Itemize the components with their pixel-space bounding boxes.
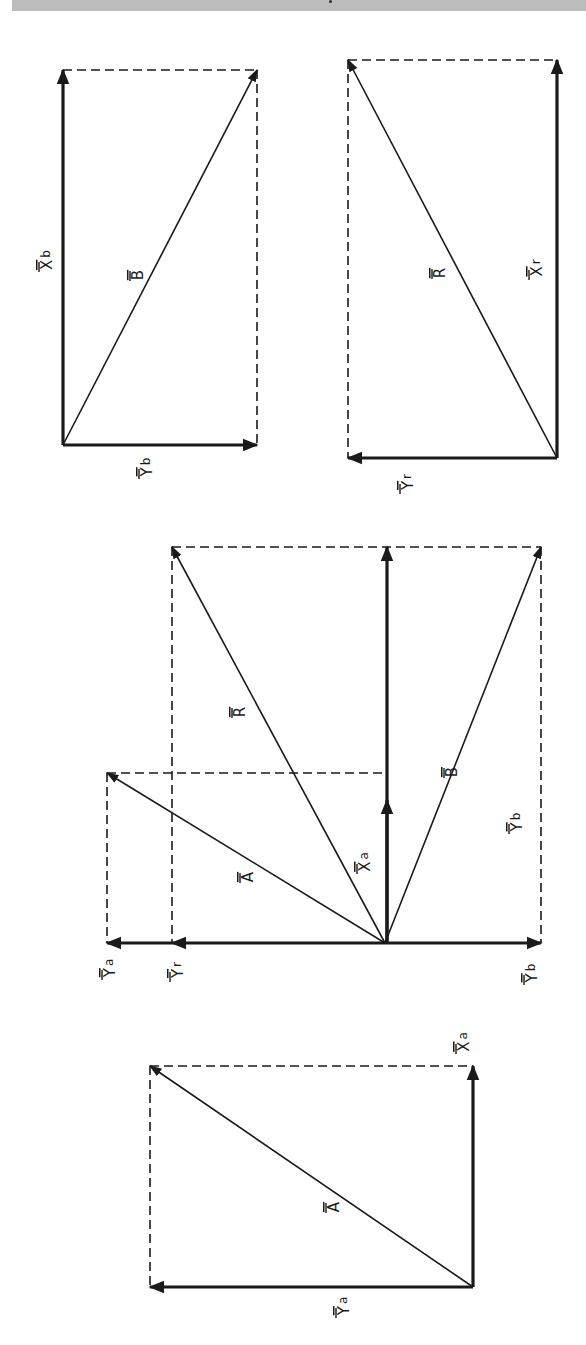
vector-label: Yr (169, 962, 187, 979)
diagram-vector-r: XrRYr (348, 60, 557, 494)
vector-label: Xa (455, 1032, 473, 1052)
vector-label: Yb (508, 813, 526, 833)
label-main: X (528, 266, 546, 276)
label-main: X (38, 260, 56, 270)
vector-arrow-r (172, 547, 385, 943)
label-main: Y (399, 480, 417, 491)
vector-label: B (129, 270, 147, 280)
vector-label: Xr (528, 259, 546, 276)
vector-label: Ya (101, 959, 119, 979)
label-subscript: a (357, 852, 371, 859)
vector-arrow-r (348, 60, 557, 458)
label-main: A (325, 1201, 343, 1212)
label-main: Y (508, 821, 526, 832)
label-subscript: r (529, 259, 543, 264)
label-main: X (455, 1042, 473, 1052)
label-subscript: b (39, 250, 53, 258)
vector-label: Xa (356, 852, 374, 872)
label-main: Y (138, 466, 156, 477)
vector-label: Ya (335, 1297, 353, 1317)
label-main: Y (169, 968, 187, 979)
vector-label: Yr (399, 474, 417, 491)
label-subscript: b (509, 813, 523, 821)
label-subscript: a (102, 959, 116, 966)
label-subscript: a (336, 1297, 350, 1304)
label-main: B (129, 270, 147, 280)
label-main: Y (335, 1305, 353, 1316)
vector-arrow-a (107, 773, 385, 943)
label-subscript: r (170, 962, 184, 967)
label-subscript: b (524, 964, 538, 972)
vector-label: A (325, 1201, 343, 1212)
label-subscript: r (400, 474, 414, 479)
vector-arrow-b (63, 70, 257, 445)
diagram-vector-a: XaAYa (150, 1032, 473, 1318)
vector-label: B (443, 767, 461, 777)
vector-diagram-canvas: XbBYb XrRYr RBYbXaAYaYrYb XaAYa (0, 0, 586, 1345)
vector-label: R (431, 268, 449, 278)
vector-label: R (231, 707, 249, 717)
diagram-vector-b: XbBYb (38, 70, 258, 479)
vector-label: Xb (38, 250, 56, 270)
label-main: X (356, 862, 374, 872)
label-main: B (443, 767, 461, 777)
vector-label: A (239, 871, 257, 882)
label-subscript: b (139, 458, 153, 466)
label-main: R (231, 707, 249, 717)
vector-arrow-b (385, 547, 541, 943)
label-subscript: a (456, 1032, 470, 1039)
vector-label: Yb (138, 458, 156, 478)
label-main: Y (101, 967, 119, 978)
vector-label: Yb (523, 964, 541, 984)
diagram-vector-sum: RBYbXaAYaYrYb (101, 547, 542, 985)
label-main: Y (523, 972, 541, 983)
label-main: A (239, 871, 257, 882)
vector-arrow-a (150, 1066, 473, 1287)
label-main: R (431, 268, 449, 278)
